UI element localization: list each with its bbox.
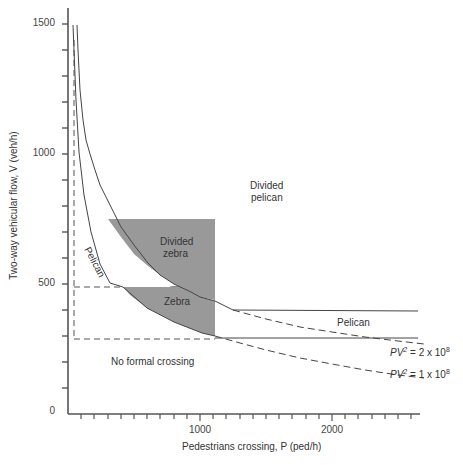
- y-tick-1000: 1000: [15, 147, 55, 158]
- label-divided-pelican-2: pelican: [251, 192, 283, 204]
- label-no-formal-crossing: No formal crossing: [111, 356, 194, 368]
- pelican-upper-line: [233, 310, 418, 311]
- label-divided-zebra-1: Divided: [160, 236, 193, 248]
- y-tick-500: 500: [15, 277, 55, 288]
- y-tick-1500: 1500: [15, 17, 55, 28]
- x-ticks: [81, 414, 411, 421]
- x-tick-1000: 1000: [180, 424, 220, 435]
- label-divided-pelican-1: Divided: [250, 180, 283, 192]
- label-zebra: Zebra: [164, 296, 190, 308]
- eq1-pow: 8: [446, 368, 450, 375]
- eq2-pv: PV: [390, 347, 403, 358]
- label-pv2-2e8: PV2 = 2 x 108: [390, 344, 450, 359]
- curve-pv2-2e8-dashed: [233, 310, 424, 344]
- y-ticks: [62, 24, 68, 388]
- x-tick-2000: 2000: [312, 424, 352, 435]
- y-axis-title: Two-way vehicular flow, V (veh/h): [8, 121, 19, 291]
- eq2-pow: 8: [446, 346, 450, 353]
- label-pelican-right: Pelican: [337, 317, 370, 329]
- chart-canvas: [0, 0, 463, 465]
- x-axis-title: Pedestrians crossing, P (ped/h): [182, 441, 321, 453]
- label-divided-zebra-2: zebra: [163, 248, 188, 260]
- y-tick-0: 0: [15, 405, 55, 416]
- eq1-pv: PV: [390, 369, 403, 380]
- eq1-rhs: = 1 x 10: [407, 369, 446, 380]
- eq2-rhs: = 2 x 10: [407, 347, 446, 358]
- label-pv2-1e8: PV2 = 1 x 108: [390, 366, 450, 381]
